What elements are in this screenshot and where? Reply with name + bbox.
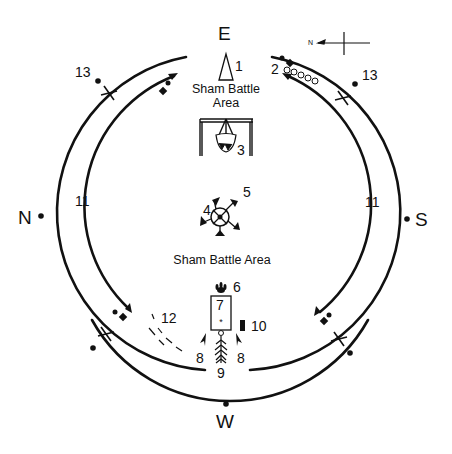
marker-11-left: 11 [75, 194, 90, 208]
marker-2: 2 [271, 62, 279, 76]
tree-branch-icon [215, 336, 227, 363]
outer-circle-bottom-arc [92, 320, 368, 401]
north-arrow-icon [318, 32, 370, 55]
direction-north-label: N [18, 208, 32, 227]
marker-6: 6 [233, 280, 241, 294]
arrow-left-icon [200, 333, 206, 346]
marker-11-right: 11 [365, 195, 380, 209]
marker-12: 12 [161, 311, 177, 325]
inner-circle-left-arc [85, 76, 174, 308]
direction-south-label: S [415, 210, 428, 229]
marker-13-right: 13 [362, 68, 378, 82]
direction-west-label: W [216, 412, 234, 431]
diagram-canvas: * [0, 0, 452, 454]
marker-3: 3 [237, 143, 245, 157]
star-cross-icon [335, 91, 351, 105]
ceremonial-ground-diagram: * E N S W N [0, 0, 452, 454]
marker-10: 10 [251, 319, 267, 333]
pole-triangle-icon [219, 54, 233, 80]
marker-4: 4 [203, 203, 211, 217]
inner-circle-right-arc [288, 76, 371, 312]
outer-circle-cross-markers [98, 86, 351, 346]
top-area-line1: Sham Battle [186, 82, 266, 96]
direction-east-label: E [218, 24, 231, 43]
marker-5: 5 [243, 185, 251, 199]
top-sham-battle-area-label: Sham Battle Area [186, 82, 266, 111]
center-sham-battle-area-label: Sham Battle Area [160, 253, 284, 267]
flag-icon [215, 230, 225, 236]
flag-icon [212, 197, 220, 206]
marker-9: 9 [217, 366, 225, 380]
marker-13-left: 13 [75, 65, 91, 79]
arrowhead-icon [314, 306, 321, 316]
flag-icon [230, 199, 238, 207]
black-post-icon [240, 320, 245, 331]
marker-1: 1 [235, 59, 243, 73]
plant-offering-icon [216, 282, 227, 293]
arrow-right-icon [236, 333, 242, 346]
marker-7: 7 [216, 298, 224, 312]
top-area-line2: Area [186, 96, 266, 110]
marker-8-right: 8 [237, 351, 245, 365]
hanging-basket-icon [216, 134, 236, 153]
outer-post-dots [90, 78, 358, 356]
marker-8-left: 8 [196, 351, 204, 365]
star-cross-icon [101, 86, 117, 100]
compass-north-label: N [308, 39, 313, 46]
asterisk-icon: * [219, 317, 223, 327]
